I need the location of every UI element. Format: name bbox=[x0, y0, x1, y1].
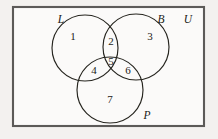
set-label-L: L bbox=[57, 13, 64, 25]
universal-set-label-U: U bbox=[184, 13, 193, 25]
region-number-4: 4 bbox=[91, 64, 97, 76]
region-number-5: 5 bbox=[108, 55, 114, 67]
venn-diagram-canvas: L B P U 1 2 3 4 5 6 7 bbox=[0, 0, 218, 139]
region-number-3: 3 bbox=[147, 30, 153, 42]
region-number-1: 1 bbox=[70, 30, 76, 42]
region-number-2: 2 bbox=[108, 35, 114, 47]
region-number-7: 7 bbox=[107, 93, 113, 105]
set-label-P: P bbox=[142, 109, 150, 121]
venn-diagram-figure: L B P U 1 2 3 4 5 6 7 bbox=[0, 0, 218, 139]
set-label-B: B bbox=[157, 13, 164, 25]
region-number-6: 6 bbox=[125, 64, 131, 76]
